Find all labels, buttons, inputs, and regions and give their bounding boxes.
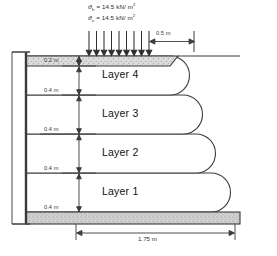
sigma-v-subscript: v <box>92 18 94 23</box>
stress-vertical-label: σv = 14.5 kN/ m2 <box>88 14 135 24</box>
surcharge-load-arrows <box>86 31 151 56</box>
layer-label-4: Layer 4 <box>102 69 138 80</box>
layer-label-2: Layer 2 <box>102 147 138 158</box>
dimension-label-cap-thickness: 0.2 m <box>44 58 59 64</box>
cross-section-drawing <box>0 0 277 256</box>
dimension-label-layer-4-thickness: 0.4 m <box>44 88 59 94</box>
wall-cross-section-figure: σh = 14.5 kN/ m2 σv = 14.5 kN/ m2 0.5 m … <box>0 0 277 256</box>
sigma-h-equals: = <box>96 3 100 10</box>
sigma-h-exponent: 2 <box>133 2 136 7</box>
sigma-h-value: 14.5 <box>102 3 114 10</box>
dimension-label-top-offset: 0.5 m <box>156 31 171 37</box>
layer-label-1: Layer 1 <box>102 186 138 197</box>
stress-horizontal-label: σh = 14.5 kN/ m2 <box>88 3 135 13</box>
sigma-h-subscript: h <box>92 7 95 12</box>
dimension-label-base-width: 1.75 m <box>138 236 157 242</box>
sigma-v-equals: = <box>96 14 100 21</box>
layer-label-3: Layer 3 <box>102 108 138 119</box>
sigma-v-value: 14.5 <box>102 14 114 21</box>
dimension-label-layer-2-thickness: 0.4 m <box>44 166 59 172</box>
sigma-h-unit: kN/ m <box>116 3 133 10</box>
sigma-v-exponent: 2 <box>133 13 136 18</box>
sigma-v-unit: kN/ m <box>116 14 133 21</box>
foundation-strip <box>26 212 240 224</box>
dimension-label-layer-1-thickness: 0.4 m <box>44 205 59 211</box>
dimension-label-layer-3-thickness: 0.4 m <box>44 127 59 133</box>
